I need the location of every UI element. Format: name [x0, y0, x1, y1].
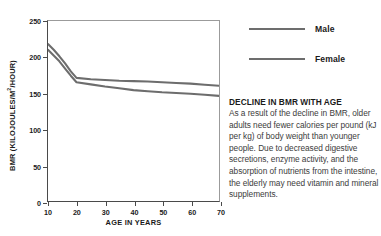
y-axis-title-main: BMR (KILOJOULES/M — [8, 91, 17, 171]
x-axis-tick — [48, 202, 49, 206]
side-note: DECLINE IN BMR WITH AGE As a result of t… — [229, 97, 381, 201]
x-axis-tick — [163, 202, 164, 206]
x-axis-tick-label: 50 — [159, 208, 167, 217]
x-axis-tick — [192, 202, 193, 206]
x-axis-tick — [221, 202, 222, 206]
y-axis-tick-label: 100 — [29, 126, 41, 135]
x-axis-tick — [77, 202, 78, 206]
y-axis-tick-label: 200 — [29, 53, 41, 62]
y-axis-title: BMR (KILOJOULES/M2/HOUR) — [8, 41, 17, 191]
line-female — [48, 50, 219, 96]
legend-item-male: Male — [249, 22, 373, 35]
x-axis-tick-label: 10 — [44, 208, 52, 217]
x-axis-title: AGE IN YEARS — [47, 218, 220, 227]
x-axis-tick-label: 40 — [131, 208, 139, 217]
y-axis-tick-label: 0 — [37, 199, 41, 208]
legend-item-female: Female — [249, 52, 373, 65]
chart-legend: Male Female — [249, 22, 373, 82]
x-axis-tick-label: 70 — [217, 208, 225, 217]
y-axis-title-exponent: 2 — [6, 88, 12, 91]
y-axis-tick-label: 250 — [29, 17, 41, 26]
legend-label-female: Female — [315, 54, 345, 64]
legend-swatch-female-icon — [249, 58, 305, 60]
side-note-title: DECLINE IN BMR WITH AGE — [229, 97, 381, 107]
plot-area — [47, 20, 220, 202]
x-axis-tick-label: 20 — [73, 208, 81, 217]
series-lines — [48, 21, 219, 201]
side-note-body: As a result of the decline in BMR, older… — [229, 108, 381, 201]
x-axis-tick-label: 30 — [102, 208, 110, 217]
x-axis-tick — [106, 202, 107, 206]
y-axis-title-tail: /HOUR) — [8, 60, 17, 87]
x-axis-tick — [135, 202, 136, 206]
x-axis-tick-label: 60 — [188, 208, 196, 217]
bmr-age-line-chart: 050100150200250 10203040506070 AGE IN YE… — [0, 0, 232, 236]
y-axis-tick-label: 150 — [29, 89, 41, 98]
y-axis-tick-label: 50 — [33, 162, 41, 171]
legend-label-male: Male — [315, 24, 335, 34]
legend-swatch-male-icon — [249, 28, 305, 30]
